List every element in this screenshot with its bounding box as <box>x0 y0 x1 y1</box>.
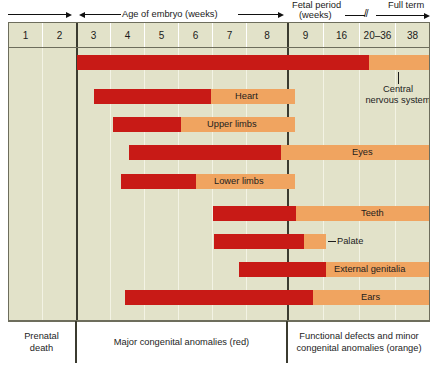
bar-label-palate: Palate <box>337 234 363 249</box>
footer-prenatal-death: Prenatal death <box>8 321 75 363</box>
bar-row-palate: Palate <box>9 234 429 249</box>
footer-legend-row: Prenatal death Major congenital anomalie… <box>8 321 430 363</box>
week-cell-8: 8 <box>247 23 287 47</box>
week-label: 20–36 <box>364 30 392 41</box>
bar-row-central-nervous-system <box>9 55 429 70</box>
bar-label-external-genitalia: External genitalia <box>334 262 405 277</box>
week-label: 4 <box>125 30 131 41</box>
bar-red-eyes <box>129 145 281 160</box>
footer-prenatal-line1: Prenatal <box>24 330 59 342</box>
critical-periods-chart: Age of embryo (weeks) Fetal period (week… <box>0 0 438 365</box>
fetal-period-label-line2: (weeks) <box>299 10 332 20</box>
bar-label-teeth: Teeth <box>361 206 384 221</box>
week-label: 3 <box>91 30 97 41</box>
week-label: 2 <box>57 30 63 41</box>
week-cell-1: 1 <box>9 23 42 47</box>
bar-red-upper-limbs <box>113 117 181 132</box>
week-label: 1 <box>23 30 29 41</box>
week-cell-20-36: 20–36 <box>360 23 395 47</box>
week-cell-2: 2 <box>43 23 76 47</box>
footer-functional-line2: congenital anomalies (orange) <box>296 342 421 354</box>
bar-label-eyes: Eyes <box>352 145 373 160</box>
week-cell-3: 3 <box>77 23 110 47</box>
embryo-arrow-line-right <box>238 14 278 15</box>
week-cell-16: 16 <box>324 23 359 47</box>
week-cell-6: 6 <box>179 23 212 47</box>
full-term-label: Full term <box>388 0 424 10</box>
week-cell-5: 5 <box>145 23 178 47</box>
bar-red-lower-limbs <box>121 174 196 189</box>
bar-red-heart <box>94 89 211 104</box>
embryo-arrow-line-left <box>85 14 121 15</box>
bar-orange-palate <box>304 234 326 249</box>
bar-red-palate <box>214 234 304 249</box>
week-label: 8 <box>264 30 270 41</box>
bar-label-upper-limbs: Upper limbs <box>207 117 257 132</box>
bar-red-central-nervous-system <box>77 55 369 70</box>
embryo-axis-label: Age of embryo (weeks) <box>122 9 218 19</box>
week-label: 9 <box>303 30 309 41</box>
bar-orange-central-nervous-system <box>369 55 430 70</box>
plot-area: Central nervous system Heart Upper limbs… <box>8 48 430 321</box>
bar-label-lower-limbs: Lower limbs <box>214 174 264 189</box>
week-label: 38 <box>407 30 418 41</box>
prenatal-arrow-head <box>66 12 72 18</box>
bar-red-external-genitalia <box>239 262 326 277</box>
bar-row-ears: Ears <box>9 290 429 305</box>
bar-red-ears <box>125 290 313 305</box>
fetal-arrow-head <box>424 13 430 19</box>
cns-leader-line <box>398 72 399 84</box>
fetal-arrow-line-right <box>376 15 424 16</box>
axis-break-mark: // <box>364 10 368 18</box>
footer-major-label: Major congenital anomalies (red) <box>114 336 249 348</box>
bar-red-teeth <box>213 206 296 221</box>
bar-label-ears: Ears <box>361 290 380 305</box>
fetal-period-label-line1: Fetal period <box>292 0 341 10</box>
palate-leader-line <box>328 241 336 242</box>
week-header-row: 1 2 3 4 5 6 7 8 9 16 20–36 38 <box>8 22 430 48</box>
week-label: 5 <box>159 30 165 41</box>
bar-label-heart: Heart <box>235 89 258 104</box>
prenatal-arrow-line <box>8 14 68 15</box>
bar-row-lower-limbs: Lower limbs <box>9 174 429 189</box>
embryo-arrow-head-right <box>278 12 284 18</box>
week-label: 7 <box>227 30 233 41</box>
week-cell-4: 4 <box>111 23 144 47</box>
footer-prenatal-line2: death <box>24 342 59 354</box>
bar-row-eyes: Eyes <box>9 145 429 160</box>
bar-row-upper-limbs: Upper limbs <box>9 117 429 132</box>
top-axis-annotation-band: Age of embryo (weeks) Fetal period (week… <box>0 0 438 22</box>
week-label: 16 <box>336 30 347 41</box>
week-label: 6 <box>193 30 199 41</box>
bar-row-heart: Heart <box>9 89 429 104</box>
footer-functional-line1: Functional defects and minor <box>296 330 421 342</box>
bar-row-teeth: Teeth <box>9 206 429 221</box>
week-cell-7: 7 <box>213 23 246 47</box>
week-cell-9: 9 <box>288 23 323 47</box>
fetal-arrow-line-left <box>345 15 365 16</box>
footer-functional-defects: Functional defects and minor congenital … <box>288 321 430 363</box>
footer-major-anomalies: Major congenital anomalies (red) <box>77 321 286 363</box>
week-cell-38: 38 <box>396 23 429 47</box>
bar-row-external-genitalia: External genitalia <box>9 262 429 277</box>
